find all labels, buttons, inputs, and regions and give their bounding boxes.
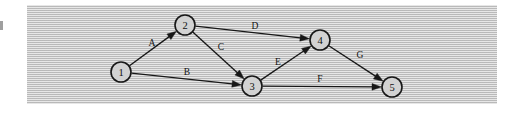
node-label-1: 1 (118, 67, 123, 78)
arrow-head-E (302, 46, 312, 54)
edge-label-G: G (357, 50, 364, 60)
node-label-5: 5 (389, 82, 394, 93)
arrow-head-D (300, 34, 310, 41)
edge-line-E (261, 50, 306, 80)
edge-line-F (262, 86, 374, 87)
arrow-head-G (373, 73, 383, 81)
arrow-head-A (167, 31, 177, 39)
node-5: 5 (382, 77, 402, 97)
node-label-3: 3 (249, 81, 254, 92)
node-label-4: 4 (317, 35, 323, 46)
edge-label-B: B (184, 67, 190, 77)
node-4: 4 (310, 30, 330, 50)
network-diagram: 12345 ABCDEFG (0, 0, 512, 120)
screenshot-root: 12345 ABCDEFG (0, 0, 512, 120)
arrow-head-B (232, 80, 242, 87)
node-3: 3 (242, 76, 262, 96)
node-2: 2 (175, 15, 195, 35)
node-label-2: 2 (182, 20, 187, 31)
edge-label-F: F (317, 74, 322, 84)
edge-line-D (195, 26, 302, 38)
edge-label-A: A (149, 38, 156, 48)
arrow-head-F (372, 83, 382, 90)
edge-label-C: C (218, 42, 224, 52)
edge-label-D: D (252, 21, 259, 31)
edge-label-E: E (275, 57, 281, 67)
node-1: 1 (111, 62, 131, 82)
edge-line-C (193, 32, 239, 74)
edge-line-G (329, 46, 378, 78)
